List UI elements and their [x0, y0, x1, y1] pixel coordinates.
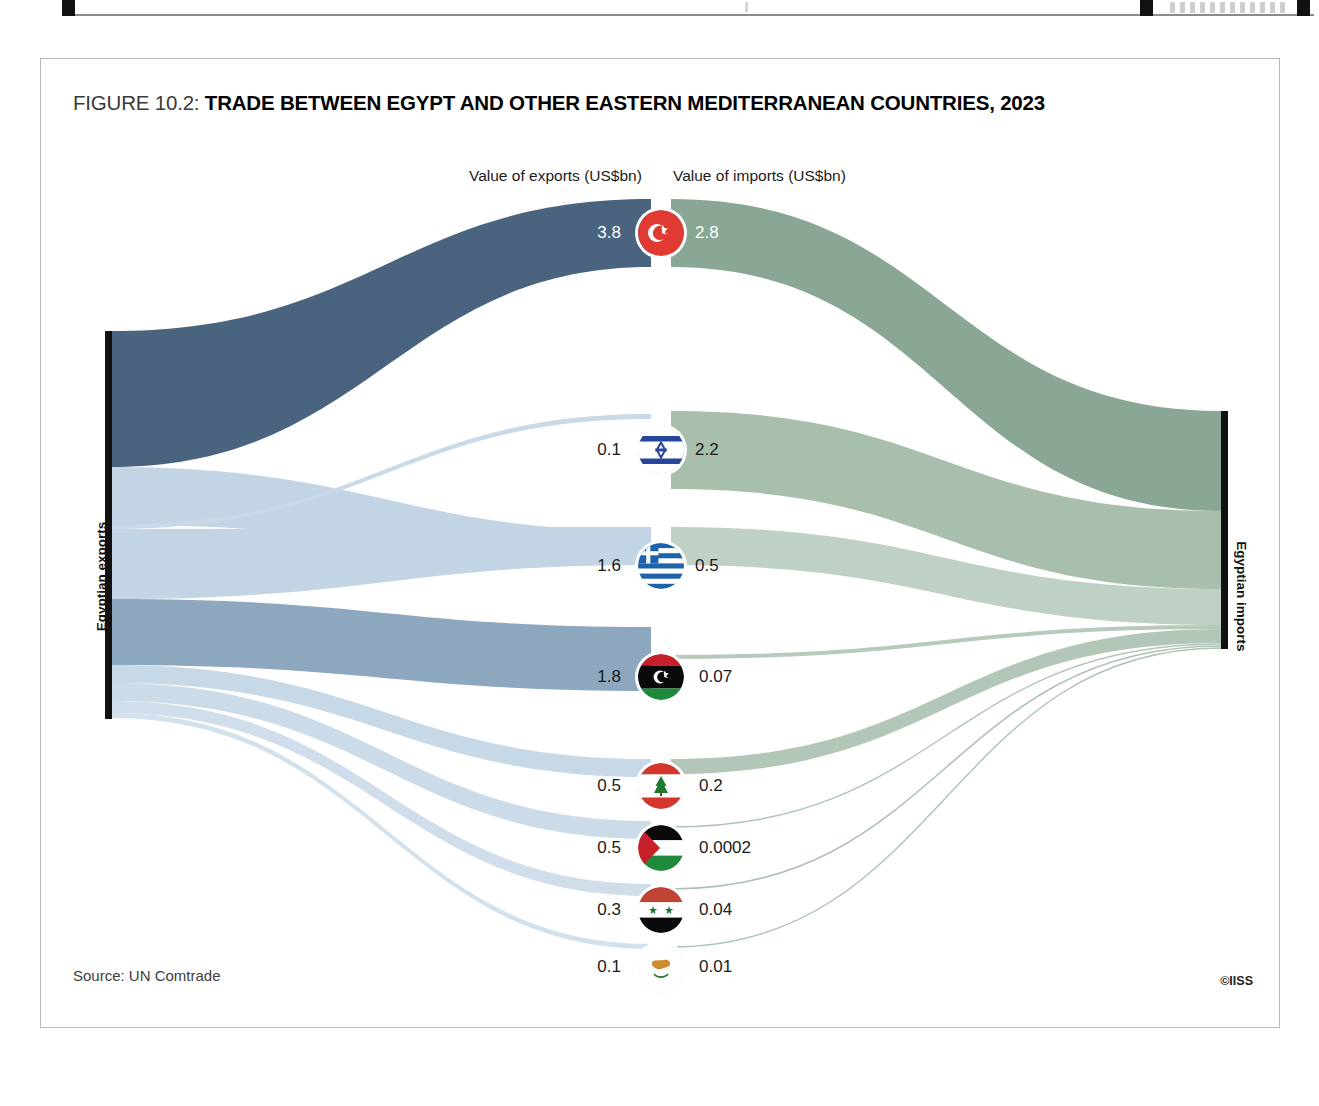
header-rule: [62, 14, 1314, 16]
turkiye-flag: [638, 210, 684, 256]
export-value-palestine: 0.5: [541, 838, 621, 858]
export-value-libya: 1.8: [541, 667, 621, 687]
header-tick-left: [62, 0, 75, 16]
node-bar-egyptian-imports: [1221, 411, 1228, 649]
export-value-cyprus: 0.1: [541, 957, 621, 977]
export-value-turkiye: 3.8: [541, 223, 621, 243]
axis-label-egyptian-exports: Egyptian exports: [94, 507, 109, 647]
greece-flag: [638, 543, 684, 589]
import-value-turkiye: 2.8: [695, 223, 719, 243]
figure-card: FIGURE 10.2: TRADE BETWEEN EGYPT AND OTH…: [40, 58, 1280, 1028]
lebanon-flag: [638, 763, 684, 809]
libya-flag: [638, 654, 684, 700]
iiss-credit: ©IISS: [1220, 974, 1253, 988]
import-value-greece: 0.5: [695, 556, 719, 576]
import-value-cyprus: 0.01: [699, 957, 732, 977]
axis-label-egyptian-imports: Egyptian imports: [1234, 527, 1249, 667]
sankey-diagram: Egyptian exports Egyptian imports 3.8 2.…: [41, 59, 1281, 1029]
header-tick-right: [1297, 0, 1310, 16]
import-value-israel: 2.2: [695, 440, 719, 460]
import-value-libya: 0.07: [699, 667, 732, 687]
export-value-israel: 0.1: [541, 440, 621, 460]
header-tick-mid: [1140, 0, 1153, 16]
import-value-syria: 0.04: [699, 900, 732, 920]
export-value-syria: 0.3: [541, 900, 621, 920]
import-flow-cyprus: [671, 648, 1221, 947]
page-header-strip: [0, 0, 1319, 22]
israel-flag: [638, 427, 684, 473]
import-value-lebanon: 0.2: [699, 776, 723, 796]
export-value-lebanon: 0.5: [541, 776, 621, 796]
import-flow-palestine: [671, 644, 1221, 827]
figure-page: FIGURE 10.2: TRADE BETWEEN EGYPT AND OTH…: [0, 0, 1319, 1106]
syria-flag: [638, 887, 684, 933]
import-value-palestine: 0.0002: [699, 838, 751, 858]
export-value-greece: 1.6: [541, 556, 621, 576]
header-faint-mark: [745, 2, 748, 12]
header-dotted-mark: [1170, 2, 1290, 13]
cyprus-flag: [638, 944, 684, 990]
palestine-flag: [638, 825, 684, 871]
source-note: Source: UN Comtrade: [73, 967, 221, 984]
export-flow-syria: [111, 701, 651, 896]
